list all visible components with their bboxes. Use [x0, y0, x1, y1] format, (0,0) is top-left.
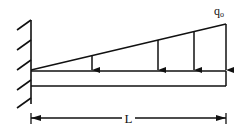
- cantilever-beam-diagram: qo L: [0, 0, 240, 133]
- fixed-wall-support: [17, 20, 31, 108]
- load-envelope-line: [31, 24, 226, 70]
- wall-hatch: [17, 20, 31, 30]
- wall-hatch: [17, 60, 31, 70]
- distributed-load: [31, 24, 226, 70]
- length-label: L: [125, 111, 133, 126]
- wall-hatch: [17, 80, 31, 90]
- beam: [31, 71, 226, 86]
- load-magnitude-label: qo: [214, 4, 224, 19]
- wall-hatch: [17, 40, 31, 50]
- wall-hatch: [17, 98, 31, 108]
